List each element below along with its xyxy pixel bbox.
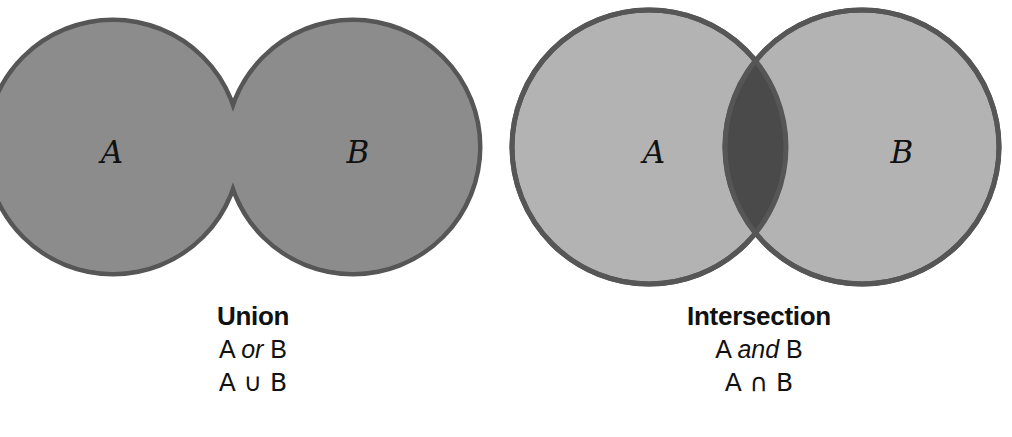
union-set-label-a: A xyxy=(101,137,123,168)
intersection-caption-title: Intersection xyxy=(506,300,1012,332)
intersection-words-operator: and xyxy=(737,335,779,363)
union-words-suffix: B xyxy=(263,335,287,363)
intersection-caption-symbols: A ∩ B xyxy=(506,366,1012,400)
union-caption-title: Union xyxy=(0,300,506,332)
intersection-set-label-b: B xyxy=(891,137,914,168)
intersection-set-label-a: A xyxy=(643,137,665,168)
intersection-panel: A B Intersection A and B A ∩ B xyxy=(506,0,1012,437)
union-panel: A B Union A or B A ∪ B xyxy=(0,0,506,437)
intersection-caption-words: A and B xyxy=(506,332,1012,366)
intersection-words-suffix: B xyxy=(779,335,803,363)
union-caption-words: A or B xyxy=(0,332,506,366)
union-venn-graphic xyxy=(0,0,506,300)
union-set-label-b: B xyxy=(347,137,370,168)
intersection-words-prefix: A xyxy=(715,335,737,363)
venn-diagram-figure: A B Union A or B A ∪ B xyxy=(0,0,1012,437)
union-caption-symbols: A ∪ B xyxy=(0,366,506,400)
intersection-caption: Intersection A and B A ∩ B xyxy=(506,300,1012,400)
union-words-operator: or xyxy=(241,335,263,363)
union-caption: Union A or B A ∪ B xyxy=(0,300,506,400)
union-words-prefix: A xyxy=(219,335,241,363)
intersection-venn-graphic xyxy=(506,0,1012,300)
